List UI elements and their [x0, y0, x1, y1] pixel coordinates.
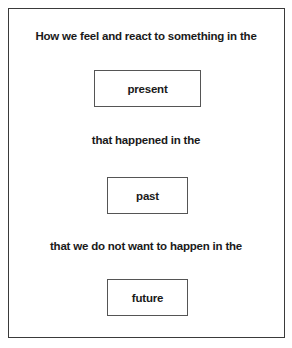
line-past-intro: that happened in the	[0, 134, 292, 146]
box-past-label: past	[136, 190, 159, 202]
box-past: past	[107, 177, 188, 214]
box-present-label: present	[127, 83, 167, 95]
box-present: present	[94, 70, 201, 107]
box-future: future	[107, 279, 188, 316]
line-future-intro: that we do not want to happen in the	[0, 240, 292, 252]
box-future-label: future	[132, 292, 163, 304]
line-present-intro: How we feel and react to something in th…	[0, 30, 292, 42]
